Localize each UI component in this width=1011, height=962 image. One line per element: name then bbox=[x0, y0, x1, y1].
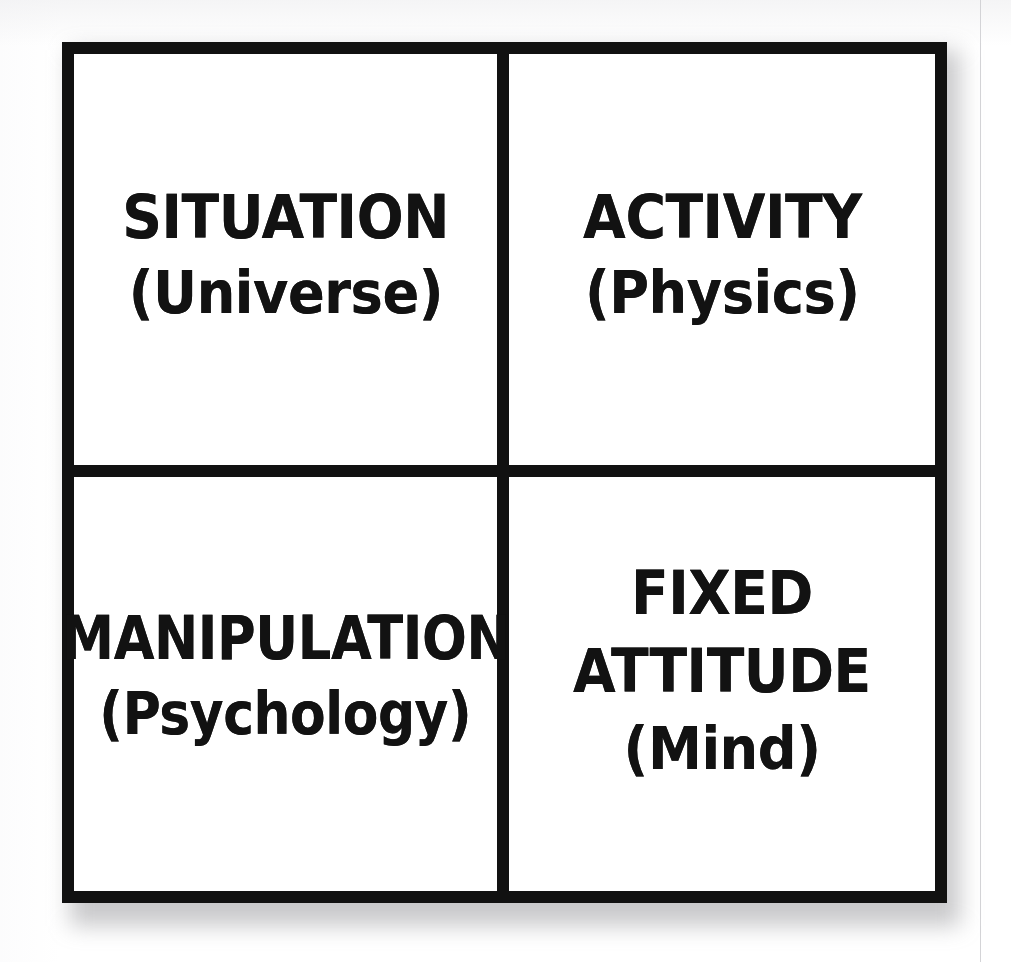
quadrant-bottom-left-secondary-label: (Psychology) bbox=[100, 684, 472, 743]
quadrant-bottom-left: MANIPULATION (Psychology) bbox=[74, 477, 497, 891]
quadrant-bottom-right: FIXED ATTITUDE (Mind) bbox=[509, 477, 935, 891]
horizontal-divider-line bbox=[62, 465, 947, 477]
quadrant-top-right-primary-label: ACTIVITY bbox=[583, 187, 862, 247]
quadrant-top-right-secondary-label: (Physics) bbox=[585, 263, 860, 322]
quadrant-bottom-right-secondary-label: (Mind) bbox=[624, 719, 821, 778]
quadrant-bottom-left-primary-label: MANIPULATION bbox=[61, 608, 510, 668]
quadrant-top-right: ACTIVITY (Physics) bbox=[509, 54, 935, 465]
scan-edge-line bbox=[980, 0, 981, 962]
quadrant-top-left: SITUATION (Universe) bbox=[74, 54, 497, 465]
quadrant-top-left-primary-label: SITUATION bbox=[122, 187, 449, 247]
quadrant-top-left-secondary-label: (Universe) bbox=[128, 263, 442, 322]
quadrant-bottom-right-primary-label: FIXED bbox=[631, 563, 813, 623]
quadrant-diagram-page: SITUATION (Universe) ACTIVITY (Physics) … bbox=[0, 0, 1011, 962]
quadrant-bottom-right-primary-label-line-two: ATTITUDE bbox=[573, 641, 871, 701]
